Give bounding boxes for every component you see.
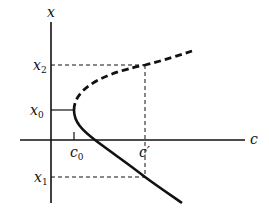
c0-label: c0 — [70, 145, 84, 162]
x1-subscript: 1 — [42, 177, 48, 187]
x0-label: x0 — [30, 103, 44, 120]
x2-subscript: 2 — [41, 65, 47, 75]
c0-subscript: 0 — [78, 152, 84, 162]
upper-branch-curve — [74, 51, 192, 110]
x2-base: x — [33, 57, 41, 73]
x0-base: x — [30, 102, 38, 118]
horizontal-axis-label: c — [250, 132, 258, 146]
vertical-axis-label: x — [47, 5, 55, 19]
c0-base: c — [70, 144, 78, 160]
cprime-label: c′ — [139, 145, 150, 159]
x1-label: x1 — [34, 170, 48, 187]
x0-subscript: 0 — [38, 110, 44, 120]
x2-label: x2 — [33, 58, 47, 75]
lower-branch-curve — [74, 110, 182, 203]
x1-base: x — [34, 169, 42, 185]
